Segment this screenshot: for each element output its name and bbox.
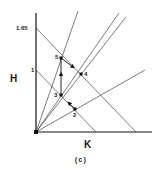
figure-caption: (c) xyxy=(74,157,87,164)
point-label-5: 5 xyxy=(55,54,58,60)
ray-shallow xyxy=(36,70,145,132)
ray-mid-a xyxy=(36,13,119,132)
axes xyxy=(36,13,152,132)
point-origin xyxy=(34,130,38,134)
iso-lines xyxy=(36,28,136,132)
point-label-4: 4 xyxy=(84,71,87,77)
point-label-2: 2 xyxy=(73,112,76,118)
point-4 xyxy=(80,73,83,76)
y-tick-1: 1 xyxy=(31,67,34,73)
x-axis-label: K xyxy=(84,140,91,150)
point-5 xyxy=(60,57,63,60)
y-tick-1-65: 1.65 xyxy=(16,25,28,31)
iso-line-1 xyxy=(36,70,96,132)
rays-from-origin xyxy=(36,11,145,132)
point-2 xyxy=(74,108,77,111)
ray-steep xyxy=(36,11,78,132)
arrow-5-to-4 xyxy=(61,58,73,67)
y-axis-label: H xyxy=(10,74,17,84)
point-3 xyxy=(60,94,63,97)
trajectory xyxy=(61,58,75,109)
point-label-3: 3 xyxy=(54,92,57,98)
iso-line-1-65 xyxy=(36,28,136,132)
